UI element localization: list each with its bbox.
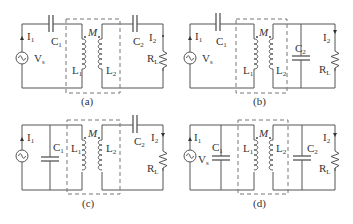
inductor-l2-icon	[98, 140, 102, 170]
svg-text:L1: L1	[243, 142, 254, 156]
svg-text:L1: L1	[243, 64, 254, 78]
svg-text:I1: I1	[27, 30, 35, 44]
caption-c: (c)	[82, 197, 95, 210]
svg-text:Vs: Vs	[198, 153, 209, 167]
svg-text:L2: L2	[106, 64, 117, 78]
inductor-l2-icon	[269, 140, 273, 170]
circuit-figure: I1 Vs C1 M L1 L2 C2 I2 RL (a) I1 Vs C1	[0, 0, 353, 224]
svg-text:M: M	[258, 127, 269, 139]
caption-b: (b)	[253, 95, 266, 108]
inductor-l1-icon	[82, 39, 86, 69]
svg-text:L2: L2	[276, 142, 287, 156]
svg-text:I2: I2	[323, 131, 331, 145]
svg-text:C2: C2	[295, 42, 306, 56]
panel-d: I1 Vs C1 M L1 L2 C2 I2 RL (d)	[184, 120, 339, 210]
svg-text:RL: RL	[147, 52, 159, 66]
ac-source-icon	[16, 150, 28, 162]
svg-text:C1: C1	[53, 141, 64, 155]
ac-source-icon	[184, 52, 196, 64]
svg-text:I1: I1	[195, 30, 203, 44]
caption-a: (a)	[81, 95, 94, 108]
svg-text:L1: L1	[71, 142, 82, 156]
svg-text:L1: L1	[72, 64, 83, 78]
svg-text:I1: I1	[194, 131, 202, 145]
svg-text:C2: C2	[134, 135, 145, 149]
svg-text:M: M	[258, 26, 269, 38]
panel-c: I1 C1 M L1 L2 C2 I2 RL (c)	[16, 115, 167, 210]
inductor-l2-icon	[269, 39, 273, 69]
inductor-l1-icon	[254, 140, 258, 170]
svg-text:RL: RL	[319, 162, 331, 176]
inductor-l1-icon	[82, 140, 86, 170]
svg-text:I2: I2	[151, 131, 159, 145]
svg-text:C1: C1	[216, 35, 227, 49]
svg-text:M: M	[87, 127, 98, 139]
inductor-l1-icon	[254, 39, 258, 69]
caption-d: (d)	[253, 197, 266, 210]
panel-b: I1 Vs C1 M L1 L2 C2 I2 RL (b)	[184, 13, 339, 108]
svg-text:I2: I2	[323, 31, 331, 45]
panel-a: I1 Vs C1 M L1 L2 C2 I2 RL (a)	[16, 15, 167, 108]
svg-text:C1: C1	[51, 35, 62, 49]
svg-text:I1: I1	[27, 131, 35, 145]
svg-text:L2: L2	[106, 142, 117, 156]
resistor-rl-icon	[331, 48, 339, 71]
svg-text:C1: C1	[212, 141, 223, 155]
svg-text:L2: L2	[276, 64, 287, 78]
svg-text:C2: C2	[133, 35, 144, 49]
resistor-rl-icon	[331, 148, 339, 171]
resistor-rl-icon	[159, 48, 167, 71]
svg-text:Vs: Vs	[202, 52, 213, 66]
svg-text:I2: I2	[149, 31, 157, 45]
svg-text:C2: C2	[307, 142, 318, 156]
svg-text:M: M	[87, 26, 98, 38]
svg-text:RL: RL	[319, 63, 331, 77]
ac-source-icon	[16, 52, 28, 64]
resistor-rl-icon	[159, 148, 167, 171]
inductor-l2-icon	[98, 39, 102, 69]
svg-text:Vs: Vs	[34, 52, 45, 66]
svg-text:RL: RL	[147, 162, 159, 176]
ac-source-icon	[184, 150, 196, 162]
